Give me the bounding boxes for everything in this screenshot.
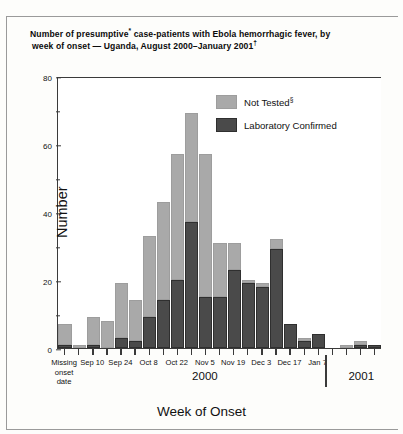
bar-segment-not-tested [143, 236, 156, 318]
x-tick-mark-21 [360, 349, 361, 355]
chart-legend: Not Tested§ Laboratory Confirmed [216, 95, 337, 141]
bar-jan-21 [354, 341, 367, 348]
x-tick-mark-6 [149, 349, 150, 355]
x-tick-mark-7 [163, 349, 164, 355]
x-tick-mark-5 [134, 349, 135, 355]
plot-area-wrapper: 020406080 Number MissingonsetdateSep 10S… [0, 0, 403, 434]
bar-segment-not-tested [171, 154, 184, 280]
x-axis-year-label-2001: 2001 [348, 370, 374, 382]
bar-segment-laboratory-confirmed [115, 338, 128, 348]
bar-segment-not-tested [58, 324, 71, 344]
x-tick-mark-4 [120, 349, 121, 355]
bar-jan-14 [340, 345, 353, 348]
bar-nov-26 [242, 280, 255, 348]
bar-segment-not-tested [101, 321, 114, 348]
bar-oct-29 [185, 113, 198, 348]
bar-segment-laboratory-confirmed [87, 345, 100, 348]
x-tick-label-oct-8: Oct 8 [139, 358, 157, 368]
x-tick-label-sep-24: Sep 24 [108, 358, 132, 368]
bar-sep-17 [101, 321, 114, 348]
x-tick-label-dec-17: Dec 17 [277, 358, 301, 368]
x-tick-mark-13 [247, 349, 248, 355]
x-tick-mark-19 [332, 349, 333, 355]
bar-nov-12 [213, 243, 226, 348]
x-tick-label-missing-onset-date: Missingonsetdate [47, 358, 81, 387]
bar-jan-28 [368, 345, 381, 348]
bar-segment-not-tested [228, 243, 241, 270]
bar-segment-laboratory-confirmed [58, 345, 71, 348]
bar-segment-not-tested [129, 300, 142, 341]
bar-segment-not-tested [199, 154, 212, 297]
x-axis-title: Week of Onset [0, 404, 403, 419]
bar-dec-24 [298, 338, 311, 348]
x-tick-mark-15 [275, 349, 276, 355]
figure-canvas: Number of presumptive* case-patients wit… [0, 0, 403, 434]
x-tick-mark-20 [346, 349, 347, 355]
x-tick-label-nov-5: Nov 5 [195, 358, 215, 368]
x-tick-mark-1 [78, 349, 79, 355]
bar-segment-not-tested [73, 345, 86, 348]
x-tick-mark-3 [106, 349, 107, 355]
x-axis-tick-marks [57, 349, 381, 357]
bar-segment-laboratory-confirmed [199, 297, 212, 348]
legend-label-not-tested-text: Not Tested [244, 97, 290, 108]
bar-segment-laboratory-confirmed [242, 283, 255, 348]
x-tick-label-nov-19: Nov 19 [221, 358, 245, 368]
bar-segment-not-tested [87, 317, 100, 344]
x-tick-mark-17 [304, 349, 305, 355]
x-tick-label-sep-10: Sep 10 [80, 358, 104, 368]
bar-segment-laboratory-confirmed [270, 249, 283, 348]
x-tick-mark-12 [233, 349, 234, 355]
x-tick-label-line: date [47, 377, 81, 387]
x-tick-mark-22 [374, 349, 375, 355]
bar-nov-19 [228, 243, 241, 348]
legend-item-laboratory-confirmed: Laboratory Confirmed [216, 118, 337, 132]
bar-oct-8 [143, 236, 156, 348]
bar-segment-not-tested [185, 113, 198, 222]
bar-dec-17 [284, 324, 297, 348]
bar-segment-not-tested [340, 345, 353, 348]
legend-item-not-tested: Not Tested§ [216, 95, 337, 109]
bar-oct-15 [157, 202, 170, 348]
bar-segment-not-tested [270, 239, 283, 249]
bar-segment-not-tested [213, 243, 226, 297]
bar-dec-31 [312, 334, 325, 348]
bar-nov-5 [199, 154, 212, 348]
legend-swatch-laboratory-confirmed [216, 118, 237, 132]
bar-segment-laboratory-confirmed [228, 270, 241, 348]
x-tick-mark-2 [92, 349, 93, 355]
bar-missing-onset-date [58, 324, 71, 348]
bar-segment-not-tested [157, 202, 170, 301]
x-tick-label-jan-7: Jan 7 [308, 358, 327, 368]
x-tick-mark-10 [205, 349, 206, 355]
bar-sep-10 [87, 317, 100, 348]
x-tick-label-line: Missing [47, 358, 81, 368]
bar-segment-laboratory-confirmed [256, 287, 269, 348]
bar-segment-laboratory-confirmed [354, 345, 367, 348]
bar-segment-laboratory-confirmed [185, 222, 198, 348]
x-tick-mark-0 [64, 349, 65, 355]
x-tick-mark-11 [219, 349, 220, 355]
bar-segment-laboratory-confirmed [368, 345, 381, 348]
legend-footnote-marker-section: § [290, 95, 294, 102]
bar-segment-laboratory-confirmed [312, 334, 325, 348]
x-axis-year-label-2000: 2000 [192, 370, 218, 382]
bar-segment-laboratory-confirmed [157, 300, 170, 348]
bar-sep-24 [115, 283, 128, 348]
x-axis-year-divider [325, 355, 326, 387]
x-tick-mark-18 [318, 349, 319, 355]
x-tick-mark-8 [177, 349, 178, 355]
bar-segment-laboratory-confirmed [213, 297, 226, 348]
bar-segment-laboratory-confirmed [298, 341, 311, 348]
bar-segment-not-tested [115, 283, 128, 337]
x-tick-mark-14 [261, 349, 262, 355]
x-tick-label-line: onset [47, 368, 81, 378]
legend-label-not-tested: Not Tested§ [244, 97, 293, 108]
bar-oct-1 [129, 300, 142, 348]
x-tick-label-oct-22: Oct 22 [166, 358, 188, 368]
legend-swatch-not-tested [216, 95, 237, 109]
x-axis-tick-labels: MissingonsetdateSep 10Sep 24Oct 8Oct 22N… [0, 358, 403, 398]
x-tick-label-dec-3: Dec 3 [251, 358, 271, 368]
bar-dec-10 [270, 239, 283, 348]
bar-segment-laboratory-confirmed [129, 341, 142, 348]
